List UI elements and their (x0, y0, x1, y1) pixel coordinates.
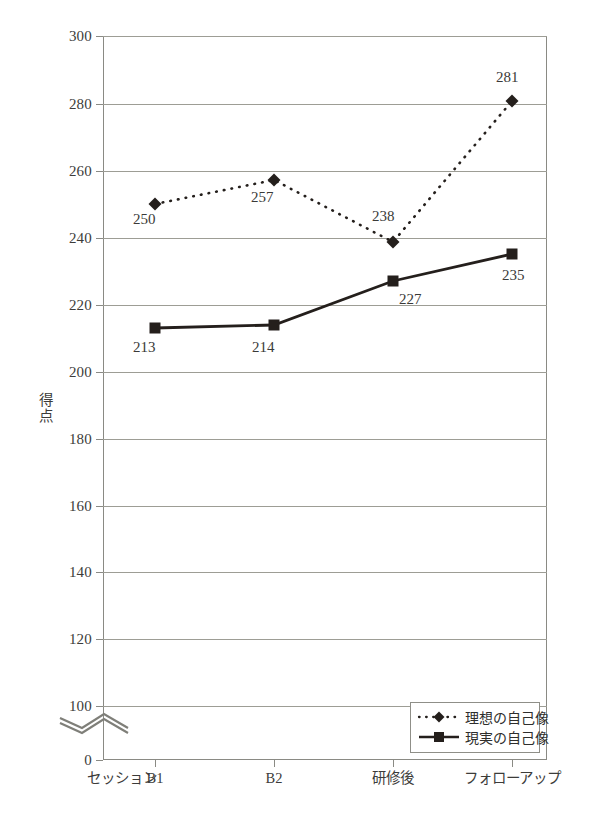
series-layer (0, 0, 603, 823)
series-ideal-line (155, 101, 512, 242)
data-label-ideal-250: 250 (133, 212, 156, 227)
data-label-real-235: 235 (502, 268, 525, 283)
series-real-line (155, 254, 512, 328)
data-label-real-214: 214 (252, 340, 275, 355)
legend-item-real: 現実の自己像 (417, 727, 533, 747)
legend-item-ideal: 理想の自己像 (417, 707, 533, 727)
series-ideal-markers (149, 95, 519, 249)
legend-label-real: 現実の自己像 (461, 727, 549, 747)
line-chart: 300 280 260 240 220 200 180 160 140 120 … (0, 0, 603, 823)
legend-label-ideal: 理想の自己像 (461, 707, 549, 727)
data-label-real-213: 213 (133, 340, 156, 355)
data-label-ideal-257: 257 (251, 190, 274, 205)
data-label-ideal-281: 281 (496, 70, 519, 85)
series-real-markers (150, 249, 518, 334)
legend-sample-dotted-diamond (417, 709, 461, 725)
data-label-real-227: 227 (399, 292, 422, 307)
data-label-ideal-238: 238 (372, 209, 395, 224)
legend-sample-solid-square (417, 729, 461, 745)
legend: 理想の自己像 現実の自己像 (410, 702, 540, 753)
